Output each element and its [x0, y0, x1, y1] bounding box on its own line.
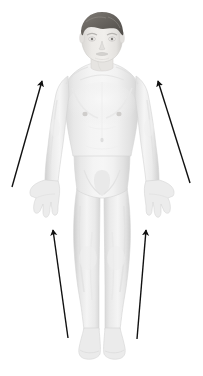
anatomical-figure-container: Grayscale frontal full-body human figure… — [0, 0, 203, 376]
body-figure — [30, 12, 174, 359]
torso — [65, 62, 140, 156]
pelvis — [74, 150, 130, 198]
left-hand — [30, 180, 60, 217]
right-nipple — [116, 112, 121, 116]
arrow-lower-right — [137, 230, 146, 339]
left-elbow — [50, 119, 60, 137]
mouth — [96, 53, 108, 56]
arrow-upper-right — [158, 81, 190, 183]
body-diagram-svg — [0, 0, 203, 376]
arrow-lower-left — [53, 230, 68, 338]
right-hand — [144, 180, 174, 217]
right-arm — [135, 76, 159, 182]
navel — [100, 138, 103, 142]
head — [80, 12, 125, 62]
left-foot — [79, 328, 101, 359]
arrow-upper-left — [12, 81, 42, 187]
right-foot — [104, 328, 126, 359]
right-elbow — [144, 119, 154, 137]
left-knee — [79, 246, 97, 270]
left-arm — [45, 76, 69, 182]
right-knee — [107, 246, 125, 270]
left-nipple — [82, 112, 87, 116]
